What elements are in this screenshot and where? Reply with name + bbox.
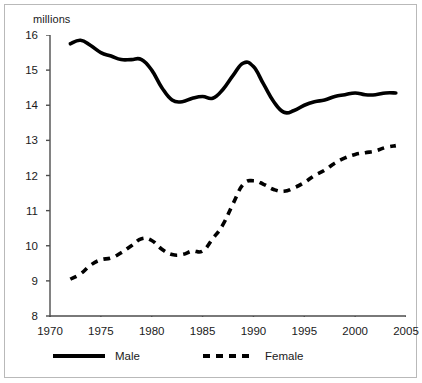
y-tick-label: 15 bbox=[14, 64, 38, 76]
axis-lines bbox=[50, 35, 406, 317]
y-tick-label: 13 bbox=[14, 134, 38, 146]
x-tick-label: 1970 bbox=[30, 325, 70, 337]
chart-svg bbox=[46, 35, 406, 317]
y-tick-label: 10 bbox=[14, 240, 38, 252]
plot-area: 8910111213141516 19701975198019851990199… bbox=[46, 35, 406, 317]
chart-figure: millions 8910111213141516 19701975198019… bbox=[4, 4, 417, 378]
series-line-male bbox=[70, 40, 395, 113]
solid-line-icon bbox=[53, 350, 105, 362]
legend-label-female: Female bbox=[265, 350, 303, 362]
y-tick-label: 16 bbox=[14, 29, 38, 41]
x-tick-label: 1990 bbox=[233, 325, 273, 337]
y-axis-unit-label: millions bbox=[33, 13, 70, 25]
y-tick-label: 11 bbox=[14, 205, 38, 217]
y-tick-label: 12 bbox=[14, 170, 38, 182]
x-tick-label: 2005 bbox=[386, 325, 422, 337]
legend-item-female: Female bbox=[203, 345, 303, 367]
x-tick-label: 1995 bbox=[284, 325, 324, 337]
x-tick-label: 1985 bbox=[183, 325, 223, 337]
legend-item-male: Male bbox=[53, 345, 140, 367]
chart-legend: Male Female bbox=[5, 345, 418, 375]
y-tick-label: 8 bbox=[14, 310, 38, 322]
x-tick-label: 2000 bbox=[335, 325, 375, 337]
x-tick-label: 1980 bbox=[132, 325, 172, 337]
legend-label-male: Male bbox=[115, 350, 140, 362]
x-tick-label: 1975 bbox=[81, 325, 121, 337]
dashed-line-icon bbox=[203, 350, 255, 362]
series-line-female bbox=[70, 146, 395, 279]
y-tick-label: 9 bbox=[14, 275, 38, 287]
y-tick-label: 14 bbox=[14, 99, 38, 111]
